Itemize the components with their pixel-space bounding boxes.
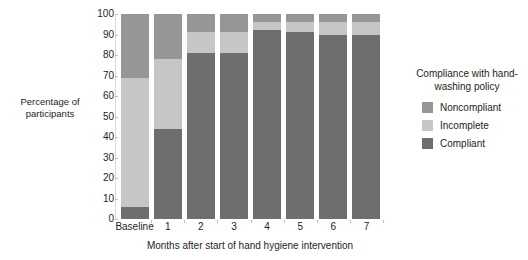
bar-segment-noncompliant [220, 14, 248, 32]
bar-stack [286, 14, 314, 219]
legend-label: Noncompliant [440, 102, 501, 113]
stacked-bar-chart: Percentage of participants 0102030405060… [0, 0, 528, 260]
y-axis-tick-label: 40 [82, 132, 114, 142]
legend-label: Compliant [440, 138, 485, 149]
bar-segment-incomplete [220, 32, 248, 53]
y-axis-tick-label: 30 [82, 153, 114, 163]
bar-segment-noncompliant [286, 14, 314, 22]
plot-area: 0102030405060708090100 Baseline1234567 [118, 14, 383, 219]
bar-segment-incomplete [352, 22, 380, 34]
bar-segment-incomplete [286, 22, 314, 32]
bar-segment-noncompliant [187, 14, 215, 32]
bar-segment-compliant [154, 129, 182, 219]
bar-stack [319, 14, 347, 219]
y-axis-tick-mark [115, 137, 118, 138]
bar-segment-noncompliant [352, 14, 380, 22]
legend: Compliance with hand-washing policy Nonc… [408, 68, 526, 156]
legend-item-compliant[interactable]: Compliant [422, 138, 526, 149]
bar-segment-noncompliant [253, 14, 281, 22]
y-axis-tick-label: 100 [82, 9, 114, 19]
x-axis-tick-label: 7 [344, 221, 388, 233]
y-axis-tick-mark [115, 76, 118, 77]
bar-segment-incomplete [154, 59, 182, 129]
y-axis-tick-mark [115, 219, 118, 220]
y-axis-tick-label: 80 [82, 50, 114, 60]
bar-segment-compliant [187, 53, 215, 219]
bar-segment-compliant [253, 30, 281, 219]
bar-segment-compliant [286, 32, 314, 219]
bar-stack [187, 14, 215, 219]
bar-stack [154, 14, 182, 219]
bar-segment-incomplete [187, 32, 215, 53]
legend-label: Incomplete [440, 120, 489, 131]
legend-swatch-icon [422, 120, 433, 131]
y-axis-tick-mark [115, 14, 118, 15]
y-axis-tick-mark [115, 55, 118, 56]
bar-segment-noncompliant [121, 14, 149, 78]
legend-swatch-icon [422, 102, 433, 113]
bar-segment-noncompliant [319, 14, 347, 22]
bar-stack [253, 14, 281, 219]
y-axis-tick-label: 0 [82, 214, 114, 224]
bar-segment-incomplete [253, 22, 281, 30]
y-axis-tick-label: 50 [82, 112, 114, 122]
x-axis-tick-mark [383, 220, 384, 223]
bar-stack [220, 14, 248, 219]
legend-items: NoncompliantIncompleteCompliant [408, 102, 526, 149]
y-axis-label: Percentage of participants [8, 96, 92, 120]
bar-stack [121, 14, 149, 219]
legend-item-incomplete[interactable]: Incomplete [422, 120, 526, 131]
y-axis-tick-label: 60 [82, 91, 114, 101]
y-axis-tick-mark [115, 96, 118, 97]
bar-segment-noncompliant [154, 14, 182, 59]
legend-item-noncompliant[interactable]: Noncompliant [422, 102, 526, 113]
y-axis-tick-label: 20 [82, 173, 114, 183]
y-axis-tick-label: 10 [82, 194, 114, 204]
y-axis-tick-mark [115, 178, 118, 179]
bar-segment-compliant [352, 35, 380, 220]
bar-stack [352, 14, 380, 219]
bar-segment-compliant [220, 53, 248, 219]
bar-segment-incomplete [121, 78, 149, 207]
legend-title: Compliance with hand-washing policy [408, 68, 526, 93]
x-axis-label: Months after start of hand hygiene inter… [100, 240, 400, 251]
bar-segment-compliant [319, 35, 347, 220]
y-axis-tick-mark [115, 117, 118, 118]
bar-segment-incomplete [319, 22, 347, 34]
y-axis-tick-mark [115, 199, 118, 200]
y-axis-tick-mark [115, 158, 118, 159]
legend-swatch-icon [422, 138, 433, 149]
y-axis-tick-label: 70 [82, 71, 114, 81]
y-axis-tick-mark [115, 35, 118, 36]
y-axis-tick-label: 90 [82, 30, 114, 40]
bar-segment-compliant [121, 207, 149, 219]
